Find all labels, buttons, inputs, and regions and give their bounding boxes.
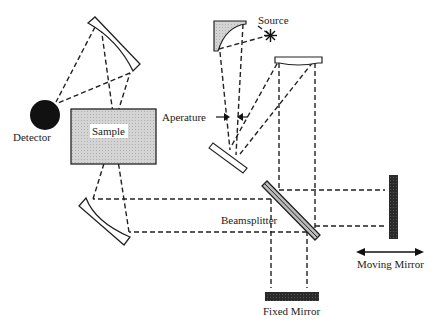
source-icon	[264, 29, 277, 42]
moving-mirror	[389, 175, 398, 239]
detector	[30, 100, 60, 130]
sample-label: Sample	[92, 125, 125, 137]
aperture	[216, 113, 248, 121]
fixed-mirror	[265, 292, 319, 301]
focusing-mirror-lower-left	[79, 198, 130, 245]
beamsplitter-label: Beamsplitter	[221, 214, 278, 226]
ftir-diagram: Detector Sample Source Aperature	[0, 0, 439, 329]
detector-label: Detector	[13, 131, 51, 143]
flat-mirror	[209, 143, 247, 173]
aperture-label: Aperature	[162, 111, 206, 123]
collimating-mirror	[275, 57, 322, 65]
double-arrow-icon	[356, 248, 424, 256]
fixed-mirror-label: Fixed Mirror	[263, 305, 320, 317]
focusing-mirror-top-left	[88, 17, 140, 71]
moving-mirror-label: Moving Mirror	[357, 258, 424, 270]
source-label: Source	[258, 14, 289, 26]
